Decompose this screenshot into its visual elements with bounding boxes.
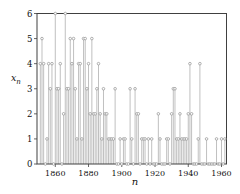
data-point-marker bbox=[219, 163, 222, 166]
data-point-marker bbox=[145, 163, 148, 166]
data-point-marker bbox=[214, 163, 217, 166]
data-point-marker bbox=[224, 138, 227, 141]
data-point-marker bbox=[222, 163, 225, 166]
y-axis-label-subscript: n bbox=[16, 78, 21, 86]
data-point-marker bbox=[157, 113, 160, 116]
data-point-marker bbox=[190, 113, 193, 116]
data-point-marker bbox=[59, 62, 62, 65]
data-point-marker bbox=[144, 138, 147, 141]
data-point-marker bbox=[94, 113, 97, 116]
data-point-marker bbox=[97, 62, 100, 65]
data-point-marker bbox=[44, 163, 47, 166]
data-point-marker bbox=[74, 87, 77, 90]
y-tick-label: 6 bbox=[27, 9, 32, 19]
data-point-marker bbox=[215, 138, 218, 141]
data-point-marker bbox=[132, 163, 135, 166]
data-point-marker bbox=[67, 87, 70, 90]
data-point-marker bbox=[130, 138, 133, 141]
y-tick-label: 3 bbox=[27, 84, 32, 94]
data-point-marker bbox=[114, 87, 117, 90]
data-point-marker bbox=[49, 87, 52, 90]
data-point-marker bbox=[150, 138, 153, 141]
data-point-marker bbox=[101, 138, 104, 141]
data-point-marker bbox=[47, 62, 50, 65]
data-point-marker bbox=[147, 138, 150, 141]
data-point-marker bbox=[96, 87, 99, 90]
data-point-marker bbox=[39, 62, 42, 65]
x-tick-label: 1920 bbox=[145, 169, 165, 178]
data-point-marker bbox=[51, 62, 54, 65]
data-point-marker bbox=[159, 138, 162, 141]
data-point-marker bbox=[139, 163, 142, 166]
data-point-marker bbox=[61, 163, 64, 166]
y-tick-label: 2 bbox=[27, 109, 32, 119]
data-point-marker bbox=[54, 12, 57, 15]
data-point-marker bbox=[199, 62, 202, 65]
y-axis-label: xn bbox=[11, 73, 21, 83]
x-tick-label: 1880 bbox=[78, 169, 98, 178]
data-point-marker bbox=[177, 138, 180, 141]
x-axis-label: n bbox=[128, 177, 142, 187]
data-point-marker bbox=[81, 138, 84, 141]
y-tick-label: 4 bbox=[27, 59, 32, 69]
x-tick-label: 1960 bbox=[211, 169, 231, 178]
data-point-marker bbox=[112, 138, 115, 141]
data-point-marker bbox=[71, 62, 74, 65]
data-point-marker bbox=[76, 138, 79, 141]
data-point-marker bbox=[102, 87, 105, 90]
stem-plot-figure: 1860188019001920194019600123456 xn n bbox=[0, 0, 240, 194]
data-point-marker bbox=[185, 138, 188, 141]
data-point-marker bbox=[99, 113, 102, 116]
data-point-marker bbox=[91, 37, 94, 40]
data-point-marker bbox=[89, 113, 92, 116]
data-point-marker bbox=[170, 113, 173, 116]
data-point-marker bbox=[42, 62, 45, 65]
data-point-marker bbox=[79, 62, 82, 65]
y-axis-ticks: 0123456 bbox=[27, 9, 37, 170]
y-tick-label: 1 bbox=[27, 134, 32, 144]
data-point-marker bbox=[117, 163, 120, 166]
data-point-marker bbox=[57, 87, 60, 90]
data-point-marker bbox=[167, 138, 170, 141]
data-point-marker bbox=[205, 138, 208, 141]
data-point-marker bbox=[137, 113, 140, 116]
data-point-marker bbox=[87, 62, 90, 65]
x-tick-label: 1940 bbox=[178, 169, 198, 178]
stem-chart-svg: 1860188019001920194019600123456 bbox=[0, 0, 240, 194]
data-point-marker bbox=[220, 138, 223, 141]
data-point-marker bbox=[119, 138, 122, 141]
data-point-marker bbox=[124, 138, 127, 141]
data-point-marker bbox=[149, 163, 152, 166]
data-point-marker bbox=[129, 87, 132, 90]
data-point-marker bbox=[84, 37, 87, 40]
data-point-marker bbox=[86, 87, 89, 90]
data-point-marker bbox=[197, 138, 200, 141]
data-point-marker bbox=[127, 163, 130, 166]
data-point-marker bbox=[134, 87, 137, 90]
x-axis-ticks: 186018801900192019401960 bbox=[45, 164, 232, 178]
data-point-marker bbox=[62, 113, 65, 116]
data-point-marker bbox=[52, 163, 55, 166]
data-point-marker bbox=[179, 113, 182, 116]
data-point-marker bbox=[187, 113, 190, 116]
data-point-marker bbox=[106, 113, 109, 116]
data-point-marker bbox=[64, 12, 67, 15]
data-point-marker bbox=[189, 62, 192, 65]
data-point-marker bbox=[174, 87, 177, 90]
y-tick-label: 5 bbox=[27, 34, 32, 44]
data-point-marker bbox=[41, 37, 44, 40]
x-tick-label: 1860 bbox=[45, 169, 65, 178]
data-point-marker bbox=[69, 37, 72, 40]
data-point-marker bbox=[169, 163, 172, 166]
y-tick-label: 0 bbox=[27, 159, 32, 169]
data-point-marker bbox=[195, 163, 198, 166]
data-point-marker bbox=[164, 163, 167, 166]
data-point-marker bbox=[204, 163, 207, 166]
data-point-marker bbox=[46, 138, 49, 141]
data-point-marker bbox=[120, 163, 123, 166]
data-point-marker bbox=[155, 163, 158, 166]
data-point-marker bbox=[72, 37, 75, 40]
